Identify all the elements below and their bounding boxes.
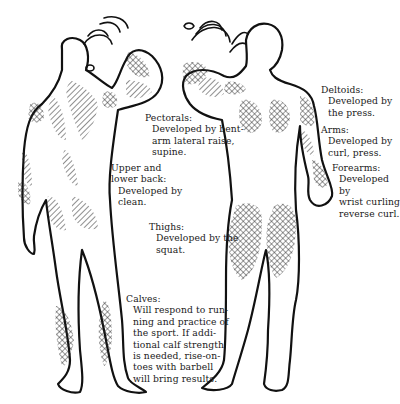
label-upper-lower-back: Upper and lower back: Developed by clean…	[111, 162, 182, 208]
calves-title: Calves:	[126, 293, 229, 304]
back-line: clean.	[111, 196, 182, 207]
calves-line: toes with barbell	[126, 361, 229, 372]
calves-line: tional calf strength	[126, 339, 229, 350]
deltoids-title: Deltoids:	[321, 84, 392, 95]
label-thighs: Thighs: Developed by the squat.	[149, 221, 239, 255]
pectorals-line: arm lateral raise,	[145, 135, 244, 146]
thighs-title: Thighs:	[149, 221, 239, 232]
calves-line: is needed, rise-on-	[126, 350, 229, 361]
label-forearms: Forearms: Developed by wrist curling rev…	[332, 162, 400, 219]
arms-title: Arms:	[321, 124, 392, 135]
label-pectorals: Pectorals: Developed by bent- arm latera…	[145, 112, 244, 158]
forearms-line: Developed by	[332, 173, 400, 196]
thighs-line: squat.	[149, 244, 239, 255]
pectorals-line: Developed by bent-	[145, 123, 244, 134]
calves-line: the sport. If addi-	[126, 327, 229, 338]
label-deltoids: Deltoids: Developed by the press.	[321, 84, 392, 118]
pectorals-title: Pectorals:	[145, 112, 244, 123]
calves-line: will bring results.	[126, 373, 229, 384]
calves-line: ning and practice of	[126, 316, 229, 327]
thighs-line: Developed by the	[149, 232, 239, 243]
forearms-line: wrist curling	[332, 196, 400, 207]
calves-line: Will respond to run-	[126, 304, 229, 315]
pectorals-line: supine.	[145, 146, 244, 157]
back-title-2: lower back:	[111, 173, 182, 184]
forearms-title: Forearms:	[332, 162, 400, 173]
deltoids-line: Developed by	[321, 95, 392, 106]
arms-line: curl, press.	[321, 147, 392, 158]
back-line: Developed by	[111, 185, 182, 196]
label-calves: Calves: Will respond to run- ning and pr…	[126, 293, 229, 384]
back-title: Upper and	[111, 162, 182, 173]
arms-line: Developed by	[321, 135, 392, 146]
forearms-line: reverse curl.	[332, 208, 400, 219]
label-arms: Arms: Developed by curl, press.	[321, 124, 392, 158]
deltoids-line: the press.	[321, 107, 392, 118]
